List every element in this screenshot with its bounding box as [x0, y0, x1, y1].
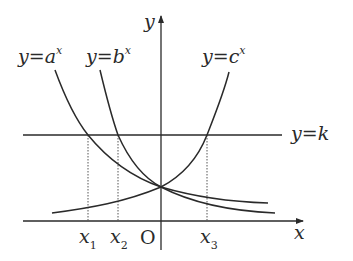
label-x3: x3 [200, 227, 218, 250]
label-curve-b-base: b [113, 45, 125, 67]
label-x3-base: x [200, 225, 211, 247]
label-curve-a-base: a [45, 45, 56, 67]
y-axis-label: y [144, 12, 155, 31]
origin-label: O [140, 228, 156, 247]
label-curve-b: y=bx [86, 47, 131, 66]
label-curve-a-exponent: x [56, 44, 62, 57]
label-curve-b-lhs: y= [86, 45, 113, 67]
label-x3-subscript: 3 [211, 239, 218, 252]
label-x2: x2 [110, 227, 128, 250]
label-curve-b-exponent: x [125, 44, 131, 57]
label-curve-c: y=cx [202, 47, 246, 66]
label-curve-a-lhs: y= [18, 45, 45, 67]
x-axis-label: x [294, 223, 305, 242]
label-curve-a: y=ax [18, 47, 62, 66]
label-x2-base: x [110, 225, 121, 247]
curve-b-x [100, 70, 275, 213]
exponential-diagram: y x O y=ax y=bx y=cx y=k x1 x2 x3 [0, 0, 353, 261]
label-curve-c-base: c [229, 45, 240, 67]
label-x1-base: x [79, 225, 90, 247]
label-x2-subscript: 2 [121, 239, 128, 252]
label-x1: x1 [79, 227, 97, 250]
label-curve-c-exponent: x [239, 44, 245, 57]
label-y-equals-k: y=k [291, 124, 329, 143]
label-x1-subscript: 1 [90, 239, 97, 252]
curve-c-x [52, 72, 229, 213]
label-curve-c-lhs: y= [202, 45, 229, 67]
